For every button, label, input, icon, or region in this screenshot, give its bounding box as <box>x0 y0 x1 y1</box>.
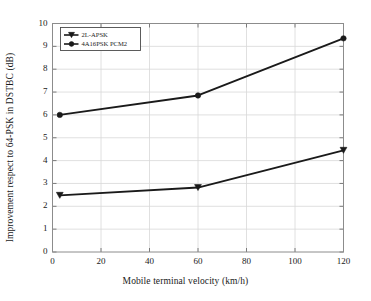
chart-legend[interactable]: 2L-APSK4A16PSK PCM2 <box>61 28 141 51</box>
x-tick-label: 0 <box>38 256 68 266</box>
y-tick-label: 10 <box>26 18 48 28</box>
y-axis-title: Improvement respect to 64-PSK in DSTBC (… <box>0 0 20 301</box>
data-point-marker <box>57 112 62 117</box>
x-tick-label: 100 <box>280 256 310 266</box>
y-tick-label: 8 <box>26 63 48 73</box>
data-point-marker <box>69 42 74 47</box>
chart-figure: 2L-APSK4A16PSK PCM2 Improvement respect … <box>0 0 371 301</box>
x-tick-label: 120 <box>329 256 359 266</box>
series-markers <box>56 36 347 199</box>
grid-lines <box>53 24 344 253</box>
y-tick-label: 4 <box>26 155 48 165</box>
y-tick-label: 0 <box>26 246 48 256</box>
y-tick-label: 3 <box>26 177 48 187</box>
x-tick-label: 60 <box>183 256 213 266</box>
y-tick-label: 6 <box>26 109 48 119</box>
y-tick-label: 1 <box>26 223 48 233</box>
data-point-marker <box>341 36 346 41</box>
x-tick-label: 20 <box>86 256 116 266</box>
series-lines <box>60 38 344 195</box>
x-tick-label: 80 <box>232 256 262 266</box>
legend-label-2l-apsk: 2L-APSK <box>82 31 109 38</box>
y-tick-label: 9 <box>26 40 48 50</box>
y-tick-label: 2 <box>26 200 48 210</box>
y-tick-label: 5 <box>26 132 48 142</box>
legend-label-4a16psk-pcm2: 4A16PSK PCM2 <box>82 40 128 47</box>
data-point-marker <box>195 93 200 98</box>
series-line-2l-apsk <box>60 150 344 195</box>
y-tick-label: 7 <box>26 86 48 96</box>
x-tick-label: 40 <box>135 256 165 266</box>
y-axis-title-wrapper: Improvement respect to 64-PSK in DSTBC (… <box>0 0 20 301</box>
x-axis-title: Mobile terminal velocity (km/h) <box>0 276 371 286</box>
